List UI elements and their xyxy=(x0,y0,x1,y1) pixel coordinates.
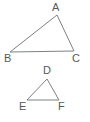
vertex-label-f: F xyxy=(58,101,65,112)
vertex-label-a: A xyxy=(52,2,59,13)
vertex-label-b: B xyxy=(4,53,11,64)
vertex-label-c: C xyxy=(72,53,80,64)
geometry-figure: A B C D E F xyxy=(0,0,90,122)
vertex-label-e: E xyxy=(19,101,26,112)
vertex-label-d: D xyxy=(43,65,51,76)
